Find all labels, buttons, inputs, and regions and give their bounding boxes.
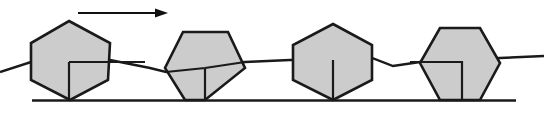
hexagon-outline-4 [420, 28, 500, 100]
rolling-hexagon-figure [0, 0, 544, 113]
hexagon-outline-1 [31, 21, 110, 100]
hexagon-position-4 [410, 28, 500, 100]
figure-canvas [0, 0, 544, 113]
hexagon-position-1 [31, 21, 145, 100]
direction-arrow [78, 8, 168, 17]
hexagon-position-2 [165, 32, 245, 100]
hexagon-position-3 [293, 24, 372, 100]
arrow-head-icon [155, 8, 168, 17]
